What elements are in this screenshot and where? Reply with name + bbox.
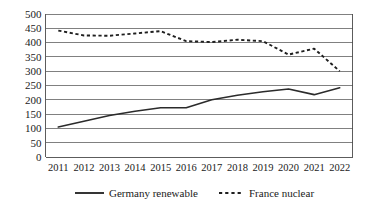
legend-label-france-nuclear: France nuclear	[249, 187, 314, 199]
y-axis-tick-label: 350	[25, 51, 42, 63]
x-axis-tick-label: 2011	[48, 162, 69, 173]
y-axis-tick-labels: 050100150200250300350400450500	[25, 8, 42, 163]
chart-figure: 050100150200250300350400450500 201120122…	[0, 0, 373, 208]
y-axis-tick-label: 200	[25, 94, 42, 106]
x-axis-tick-label: 2018	[227, 162, 248, 173]
x-axis-tick-label: 2021	[304, 162, 325, 173]
y-axis-tick-label: 500	[25, 8, 42, 20]
y-axis-tick-label: 150	[25, 108, 42, 120]
y-axis-tick-label: 100	[25, 122, 42, 134]
legend-label-germany-renewable: Germany renewable	[109, 187, 198, 199]
x-axis-tick-label: 2014	[125, 162, 147, 173]
series-line-france-nuclear	[58, 31, 339, 72]
x-axis-tick-label: 2012	[73, 162, 94, 173]
x-axis-tick-label: 2019	[252, 162, 273, 173]
x-axis-tick-label: 2017	[201, 162, 222, 173]
x-axis-tick-label: 2015	[150, 162, 171, 173]
x-axis-tick-label: 2022	[329, 162, 350, 173]
chart-legend: Germany renewable France nuclear	[75, 187, 314, 199]
series-line-germany-renewable	[58, 88, 339, 127]
x-axis-tick-labels: 2011201220132014201520162017201820192020…	[48, 162, 350, 173]
x-axis-tick-label: 2020	[278, 162, 299, 173]
y-axis-tick-label: 50	[31, 137, 43, 149]
y-axis-tick-label: 450	[25, 22, 42, 34]
x-axis-tick-label: 2013	[99, 162, 120, 173]
line-chart-canvas: 050100150200250300350400450500 201120122…	[0, 0, 373, 208]
x-axis-tick-label: 2016	[176, 162, 197, 173]
y-axis-tick-label: 400	[25, 36, 42, 48]
y-axis-tick-label: 300	[25, 65, 42, 77]
gridlines-group	[46, 14, 353, 143]
y-axis-tick-label: 250	[25, 79, 42, 91]
y-axis-tick-label: 0	[36, 151, 42, 163]
